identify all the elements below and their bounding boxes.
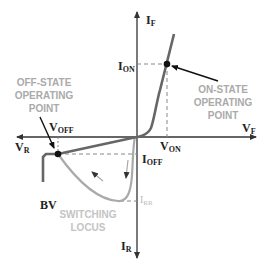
svg-text:OPERATING: OPERATING — [15, 90, 74, 101]
label-v-on: VON — [160, 139, 181, 154]
label-v-forward: VF — [242, 121, 256, 136]
off-state-point — [55, 151, 62, 158]
svg-text:POINT: POINT — [29, 103, 60, 114]
svg-text:POINT: POINT — [208, 110, 239, 121]
on-state-pointer-arrow — [172, 66, 218, 81]
svg-text:SWITCHING: SWITCHING — [59, 209, 116, 220]
on-state-point — [164, 61, 171, 68]
label-v-reverse: VR — [15, 140, 30, 155]
label-i-rr: IRR — [140, 194, 153, 207]
svg-text:LOCUS: LOCUS — [71, 222, 106, 233]
label-i-off: IOFF — [142, 152, 163, 167]
svg-text:ON-STATE: ON-STATE — [198, 84, 248, 95]
locus-direction-arrow-left — [92, 172, 103, 181]
diode-iv-diagram: IF IR VF VR ION VON VOFF IOFF IRR BV OFF… — [0, 0, 271, 276]
label-breakdown-voltage: BV — [40, 198, 57, 212]
svg-text:OFF-STATE: OFF-STATE — [17, 77, 72, 88]
switching-locus-annotation: SWITCHING LOCUS — [59, 209, 116, 233]
label-i-forward: IF — [146, 13, 156, 28]
on-state-annotation: ON-STATE OPERATING POINT — [194, 84, 253, 121]
off-state-annotation: OFF-STATE OPERATING POINT — [15, 77, 74, 114]
label-i-reverse: IR — [121, 239, 132, 254]
label-i-on: ION — [118, 59, 135, 74]
locus-direction-arrow-down — [126, 160, 128, 178]
svg-text:OPERATING: OPERATING — [194, 97, 253, 108]
label-v-off: VOFF — [49, 120, 74, 135]
